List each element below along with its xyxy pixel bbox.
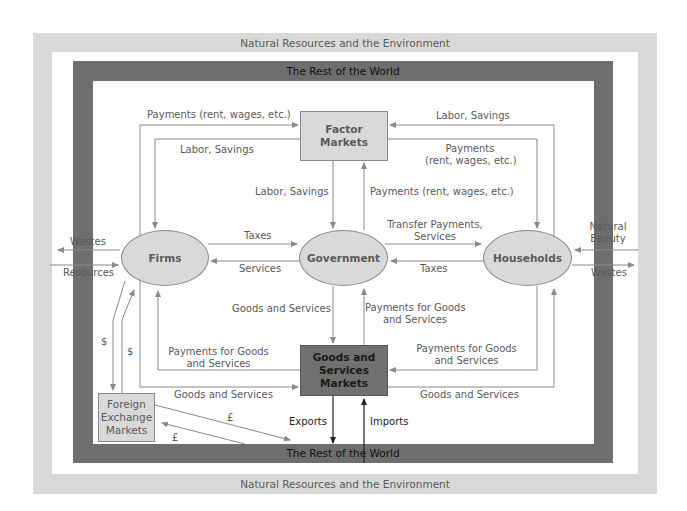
label-firms-factor-payments: Payments (rent, wages, etc.) xyxy=(147,109,291,121)
label-line: Payments xyxy=(425,143,515,155)
foreign-exchange-markets-box: Foreign Exchange Markets xyxy=(98,393,155,442)
gsm-line-1: Goods and xyxy=(313,351,376,364)
label-firms-markets-goods: Goods and Services xyxy=(174,389,273,401)
label-gov-firms-services: Services xyxy=(239,263,281,275)
label-pound-1: £ xyxy=(227,412,233,424)
gsm-line-2: Services xyxy=(319,364,369,377)
label-line: Beauty xyxy=(588,233,628,245)
government-node: Government xyxy=(299,230,388,286)
label-firms-wastes: Wastes xyxy=(70,236,106,248)
label-line: Payments for Goods xyxy=(414,343,519,355)
label-gov-households-transfer: Transfer Payments, Services xyxy=(385,219,485,243)
label-gov-markets-payments: Payments for Goods and Services xyxy=(365,302,465,326)
label-firms-resources: Resources xyxy=(63,267,114,279)
label-line: and Services xyxy=(414,355,519,367)
fem-line-1: Foreign xyxy=(107,398,146,411)
label-gov-factor-payments: Payments (rent, wages, etc.) xyxy=(370,186,514,198)
label-dollar-1: $ xyxy=(101,336,107,348)
label-factor-firms-labor: Labor, Savings xyxy=(180,144,254,156)
label-line: and Services xyxy=(166,358,271,370)
government-label: Government xyxy=(307,252,380,265)
label-factor-households-payments: Payments (rent, wages, etc.) xyxy=(425,143,515,167)
label-pound-2: £ xyxy=(172,432,178,444)
label-households-factor-labor: Labor, Savings xyxy=(436,110,510,122)
fem-line-2: Exchange xyxy=(101,411,152,424)
label-imports: Imports xyxy=(370,416,408,428)
label-markets-firms-payments: Payments for Goods and Services xyxy=(166,346,271,370)
label-markets-gov-goods: Goods and Services xyxy=(232,303,331,315)
households-node: Households xyxy=(483,230,572,286)
households-label: Households xyxy=(493,252,562,265)
label-exports: Exports xyxy=(289,416,327,428)
factor-markets-label: Factor Markets xyxy=(301,123,387,149)
goods-services-markets-box: Goods and Services Markets xyxy=(300,345,388,396)
firms-label: Firms xyxy=(148,252,181,265)
circular-flow-diagram: Natural Resources and the Environment Na… xyxy=(0,0,687,511)
label-line: (rent, wages, etc.) xyxy=(425,155,515,167)
fem-line-3: Markets xyxy=(106,424,148,437)
label-firms-gov-taxes: Taxes xyxy=(244,230,272,242)
label-households-gov-taxes: Taxes xyxy=(420,263,448,275)
label-line: Payments for Goods xyxy=(166,346,271,358)
label-line: Transfer Payments, xyxy=(385,219,485,231)
label-line: Services xyxy=(385,231,485,243)
label-households-wastes: Wastes xyxy=(591,267,627,279)
gsm-line-3: Markets xyxy=(320,377,368,390)
label-factor-gov-labor: Labor, Savings xyxy=(255,186,329,198)
factor-markets-box: Factor Markets xyxy=(300,111,388,161)
label-line: Natural xyxy=(588,221,628,233)
label-dollar-2: $ xyxy=(127,346,133,358)
firms-node: Firms xyxy=(121,230,209,286)
label-markets-households-goods: Goods and Services xyxy=(420,389,519,401)
label-line: and Services xyxy=(365,314,465,326)
label-natural-beauty: Natural Beauty xyxy=(588,221,628,245)
label-line: Payments for Goods xyxy=(365,302,465,314)
label-households-markets-payments: Payments for Goods and Services xyxy=(414,343,519,367)
